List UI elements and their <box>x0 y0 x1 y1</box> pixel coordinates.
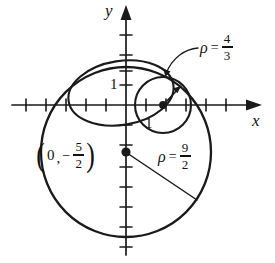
point-x-value: 0 <box>47 148 55 163</box>
fraction-numerator-point: 5 <box>73 140 84 153</box>
big-circle-radius-label: ρ = 9 2 <box>158 142 191 172</box>
axis-arrowheads <box>121 5 263 111</box>
polar-circles-diagram <box>0 0 275 263</box>
center-point-label: ( 0 , − 5 2 ) <box>35 141 96 171</box>
open-paren: ( <box>36 144 45 168</box>
y-tick-label-1: 1 <box>110 77 118 92</box>
small-circle-radius-arrow <box>164 86 181 104</box>
x-axis-label: x <box>252 112 260 129</box>
x-axis-arrow <box>246 100 262 111</box>
figure-canvas: y x 1 1 ρ = 4 3 ρ = 9 2 <box>0 0 275 263</box>
fraction-nine-halves: 9 2 <box>180 141 191 171</box>
fraction-denominator-point: 2 <box>73 157 84 170</box>
fraction-numerator-big: 9 <box>180 141 191 154</box>
point-minus-sign: − <box>62 149 71 163</box>
rho-symbol-small: ρ <box>200 40 208 56</box>
fraction-four-thirds: 4 3 <box>222 32 233 62</box>
fraction-denominator-big: 2 <box>180 158 191 171</box>
fraction-five-halves: 5 2 <box>73 140 84 170</box>
small-circle-tick-label-1: 1 <box>145 116 153 131</box>
close-paren: ) <box>86 144 95 168</box>
y-axis-arrow <box>121 5 132 20</box>
leader-line-small-circle <box>163 48 198 77</box>
fraction-numerator-small: 4 <box>222 32 233 45</box>
y-axis-label: y <box>105 2 113 19</box>
medium-ellipse <box>64 53 179 133</box>
equals-sign-small: = <box>211 41 219 55</box>
rho-symbol-big: ρ <box>158 149 166 165</box>
fraction-denominator-small: 3 <box>222 49 233 62</box>
equals-sign-big: = <box>169 150 177 164</box>
small-circle-radius-label: ρ = 4 3 <box>200 33 233 63</box>
point-comma: , <box>57 151 61 166</box>
